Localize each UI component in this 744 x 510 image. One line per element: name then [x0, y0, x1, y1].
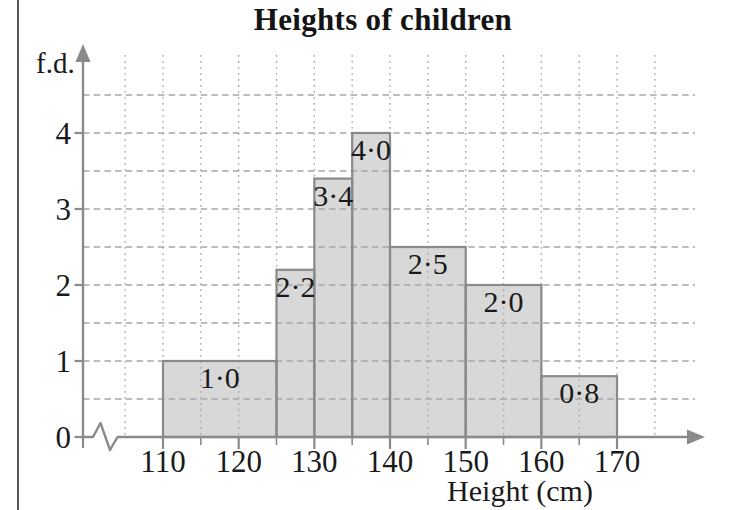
- x-tick-label: 130: [291, 444, 338, 479]
- x-tick-label: 120: [215, 444, 262, 479]
- x-tick-label: 110: [140, 444, 185, 479]
- y-tick-label: 1: [56, 344, 72, 379]
- y-tick-label: 4: [56, 116, 72, 151]
- y-tick-label: 0: [56, 420, 72, 455]
- bar-value-label: 2·5: [408, 247, 448, 280]
- y-axis-arrowhead: [76, 44, 91, 62]
- y-tick-label: 2: [56, 268, 72, 303]
- histogram-plot: 110120130140150160170012341·02·23·44·02·…: [0, 0, 744, 510]
- bar-fill: [314, 179, 352, 437]
- histogram-figure: Heights of children f.d. 110120130140150…: [0, 0, 744, 510]
- bar-value-label: 2·0: [484, 285, 524, 318]
- bar-value-label: 1·0: [200, 361, 240, 394]
- bar-value-label: 3·4: [313, 179, 353, 212]
- x-axis-label: Height (cm): [400, 474, 640, 508]
- y-tick-label: 3: [56, 192, 72, 227]
- bar-value-label: 0·8: [559, 376, 599, 409]
- bar-value-label: 4·0: [351, 133, 391, 166]
- bar-value-label: 2·2: [275, 270, 315, 303]
- x-axis-arrowhead: [687, 430, 705, 445]
